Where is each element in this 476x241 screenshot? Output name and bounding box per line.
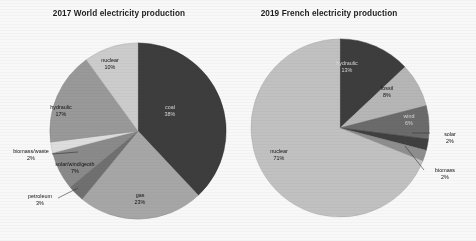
chart-title-french: 2019 French electricity production [210,9,448,18]
chart-title-world: 2017 World electricity production [0,9,238,18]
chart-panel-world: 2017 World electricity production [0,0,238,241]
page-root: 2017 World electricity production [0,0,476,241]
pie-chart-french [250,38,430,218]
pie-svg-world [49,42,227,220]
pie-svg-french [250,38,430,218]
pie-chart-world [49,42,227,220]
slice-label-biomass-waste-name: biomass/waste [13,148,49,154]
